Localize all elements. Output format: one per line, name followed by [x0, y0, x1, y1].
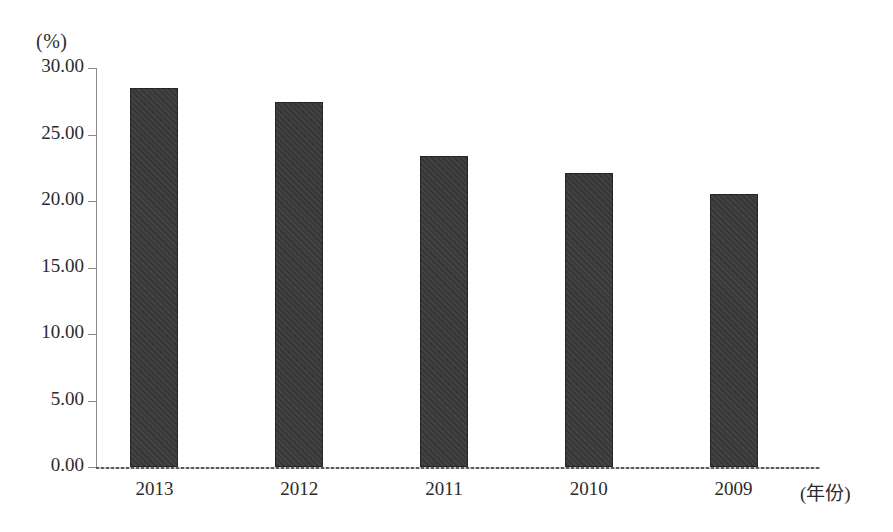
y-axis-tick	[88, 68, 96, 69]
bar-2011	[420, 156, 468, 467]
x-axis-tick-label: 2011	[372, 478, 517, 500]
y-axis-tick-label: 10.00	[8, 321, 84, 343]
bar-2010	[565, 173, 613, 467]
y-axis-tick	[88, 334, 96, 335]
y-axis-tick-label: 25.00	[8, 122, 84, 144]
bar-2012	[275, 102, 323, 467]
x-axis-line	[96, 467, 820, 469]
x-axis-title: (年份)	[800, 478, 851, 505]
x-axis-tick-label: 2013	[82, 478, 227, 500]
y-axis-tick-label: 0.00	[8, 454, 84, 476]
x-axis-tick-label: 2010	[516, 478, 661, 500]
y-axis-line	[96, 68, 97, 469]
y-axis-tick-label: 5.00	[8, 388, 84, 410]
x-axis-tick-label: 2012	[227, 478, 372, 500]
x-axis-tick-label: 2009	[661, 478, 806, 500]
bar-chart: (%) 30.0025.0020.0015.0010.005.000.00 20…	[0, 0, 893, 532]
y-axis-tick	[88, 467, 96, 468]
y-axis-tick	[88, 201, 96, 202]
bar-2013	[130, 88, 178, 467]
y-axis-tick	[88, 135, 96, 136]
y-axis-tick-labels: 30.0025.0020.0015.0010.005.000.00	[8, 0, 84, 532]
y-axis-tick-label: 20.00	[8, 188, 84, 210]
y-axis-tick-label: 30.00	[8, 55, 84, 77]
y-axis-tick	[88, 268, 96, 269]
y-axis-tick	[88, 401, 96, 402]
bar-2009	[710, 194, 758, 467]
y-axis-tick-label: 15.00	[8, 255, 84, 277]
